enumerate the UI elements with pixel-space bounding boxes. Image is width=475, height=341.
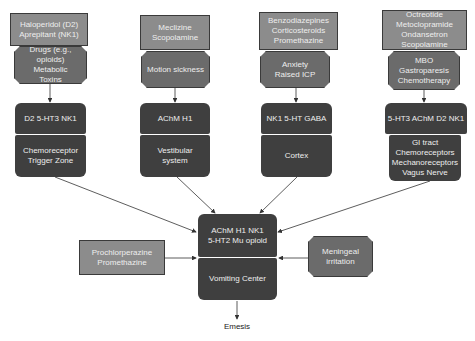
drug-box-octreotide: Octreotide Metoclopramide Ondansetron Sc… — [382, 10, 467, 50]
receptor-box-vestibular: AChM H1 — [140, 103, 210, 134]
drug-box-haloperidol: Haloperidol (D2) Aprepitant (NK1) — [10, 13, 88, 46]
drug-box-prochlorperazine: Prochlorperazine Promethazine — [79, 240, 165, 275]
trigger-box-drugs-toxins: Drugs (e.g., opioids) Metabolic Toxins — [14, 46, 87, 84]
location-box-vestibular: Vestibular system — [140, 135, 210, 177]
receptor-box-cortex: NK1 5-HT GABA — [261, 103, 332, 134]
drug-box-meclizine: Meclizine Scopolamine — [140, 15, 210, 50]
receptor-box-vomiting-center: AChM H1 NK1 5-HT2 Mu opioid — [198, 214, 277, 257]
location-box-cortex: Cortex — [261, 135, 332, 177]
outcome-label-emesis: Emesis — [217, 322, 257, 331]
receptor-box-gi: 5-HT3 AChM D2 NK1 — [385, 103, 467, 134]
trigger-box-mbo: MBO Gastroparesis Chemotherapy — [388, 51, 460, 90]
receptor-box-ctz: D2 5-HT3 NK1 — [15, 103, 86, 134]
trigger-box-anxiety: Anxiety Raised ICP — [260, 51, 330, 88]
trigger-box-meningeal-irritation: Meningeal irritation — [308, 236, 373, 277]
drug-box-benzodiazepines: Benzodiazepines Corticosteroids Prometha… — [259, 12, 338, 50]
location-box-vomiting-center: Vomiting Center — [198, 258, 277, 300]
location-box-gi-tract: GI tract Chemoreceptors Mechanoreceptors… — [389, 135, 461, 181]
location-box-ctz: Chemoreceptor Trigger Zone — [15, 135, 86, 177]
trigger-box-motion-sickness: Motion sickness — [141, 51, 210, 88]
